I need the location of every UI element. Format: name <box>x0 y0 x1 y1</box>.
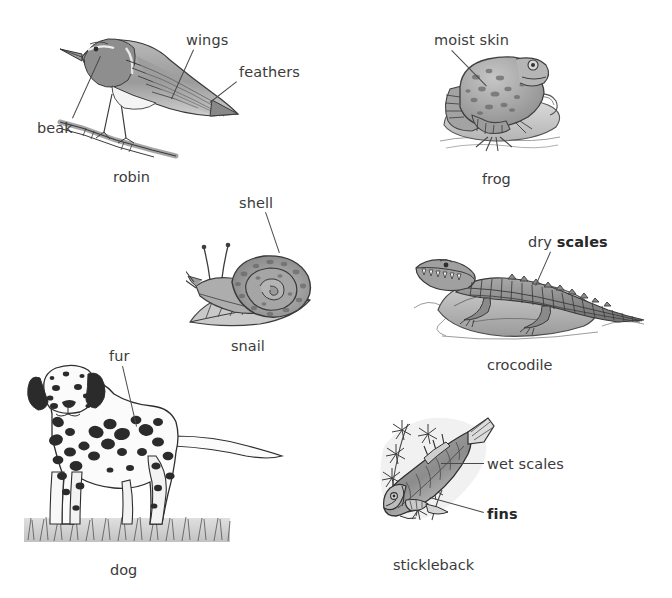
figure-name-snail: snail <box>231 339 265 354</box>
frog-drawing <box>432 45 572 160</box>
label-shell: shell <box>239 196 273 211</box>
figure-robin <box>52 30 242 160</box>
figure-name-frog: frog <box>482 172 511 187</box>
figure-name-dog: dog <box>110 563 137 578</box>
figure-dog <box>18 360 290 550</box>
animal-body-covering-diagram: beak wings feathers robin <box>0 0 672 598</box>
figure-name-crocodile: crocodile <box>487 358 553 373</box>
robin-drawing <box>52 30 242 160</box>
label-fins: fins <box>487 507 518 522</box>
label-feathers: feathers <box>239 65 300 80</box>
label-scales-bold: scales <box>557 234 608 250</box>
dog-drawing <box>18 360 290 550</box>
figure-snail <box>186 238 331 333</box>
stickleback-drawing <box>372 412 502 537</box>
label-beak: beak <box>37 121 73 136</box>
figure-name-stickleback: stickleback <box>393 558 474 573</box>
crocodile-drawing <box>412 248 647 343</box>
snail-drawing <box>186 238 331 333</box>
label-wings: wings <box>186 33 228 48</box>
figure-name-robin: robin <box>113 170 150 185</box>
figure-stickleback <box>372 412 502 537</box>
label-moist-skin: moist skin <box>434 33 509 48</box>
leader-wet-scales <box>441 463 484 464</box>
figure-crocodile <box>412 248 647 343</box>
figure-frog <box>432 45 572 160</box>
label-dry-scales: dry scales <box>528 235 608 250</box>
label-dry-prefix: dry <box>528 234 557 250</box>
label-wet-scales: wet scales <box>487 457 564 472</box>
label-fur: fur <box>109 349 130 364</box>
